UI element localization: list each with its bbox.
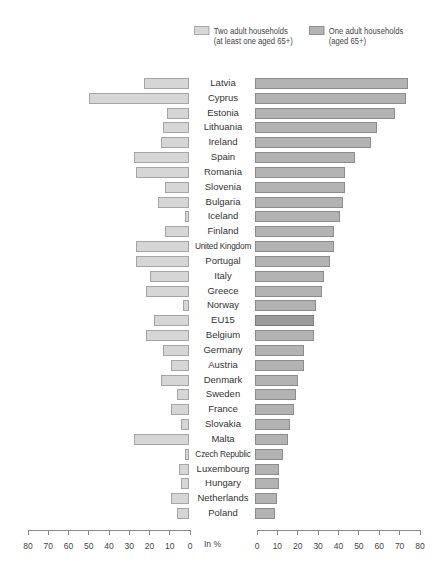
bar-one-adult (255, 434, 288, 445)
chart-row: Malta (0, 434, 440, 446)
chart-row: Finland (0, 226, 440, 238)
bar-two-adult (171, 360, 189, 371)
bar-one-adult (255, 449, 283, 460)
bar-two-adult (136, 167, 189, 178)
axis-tick (68, 530, 69, 535)
bar-one-adult (255, 211, 340, 222)
chart-row: France (0, 404, 440, 416)
axis-tick (48, 530, 49, 535)
bar-one-adult (255, 226, 334, 237)
bar-one-adult (255, 152, 355, 163)
chart-row: Denmark (0, 375, 440, 387)
axis-tick (149, 530, 150, 535)
axis-tick (169, 530, 170, 535)
country-label: France (190, 403, 256, 415)
bar-one-adult (255, 93, 406, 104)
axis-tick (88, 530, 89, 535)
legend-swatch-dark (309, 26, 324, 35)
chart-row: Italy (0, 271, 440, 283)
country-label: Greece (190, 285, 256, 297)
axis-tick-label: 80 (18, 541, 38, 551)
bar-two-adult (161, 137, 189, 148)
bar-one-adult (255, 360, 304, 371)
country-label: Italy (190, 270, 256, 282)
bar-two-adult (183, 300, 189, 311)
country-label: Sweden (190, 388, 256, 400)
country-label: Norway (190, 299, 256, 311)
country-label: Spain (190, 151, 256, 163)
bar-two-adult (163, 122, 189, 133)
axis-tick-label: 70 (38, 541, 58, 551)
bar-two-adult (146, 286, 189, 297)
axis-tick-label: 20 (140, 541, 160, 551)
bar-two-adult (185, 211, 189, 222)
bar-one-adult (255, 108, 395, 119)
chart-row: Romania (0, 167, 440, 179)
bar-one-adult (255, 493, 277, 504)
country-label: Slovakia (190, 418, 256, 430)
country-label: Netherlands (190, 492, 256, 504)
axis-tick (420, 530, 421, 535)
legend-one-adult-line2: (aged 65+) (329, 36, 403, 46)
bar-two-adult (181, 419, 189, 430)
right-axis: 01020304050607080 (257, 530, 420, 537)
country-label: Iceland (190, 210, 256, 222)
bar-one-adult (255, 122, 377, 133)
country-label: Malta (190, 433, 256, 445)
left-axis: 80706050403020100 (28, 530, 190, 537)
chart-row: Estonia (0, 108, 440, 120)
axis-tick-label: 50 (349, 541, 369, 551)
country-label: Romania (190, 166, 256, 178)
axis-tick-label: 40 (329, 541, 349, 551)
axis-tick-label: 60 (59, 541, 79, 551)
chart-row: Iceland (0, 211, 440, 223)
bar-one-adult (255, 286, 322, 297)
country-label: EU15 (190, 314, 256, 326)
country-label: Luxembourg (190, 463, 256, 475)
bar-one-adult (255, 389, 296, 400)
bar-two-adult (171, 404, 189, 415)
axis-tick (358, 530, 359, 535)
bar-one-adult (255, 345, 304, 356)
legend-two-adult-line2: (at least one aged 65+) (214, 36, 293, 46)
bar-one-adult (255, 478, 279, 489)
bar-one-adult (255, 241, 334, 252)
bar-one-adult (255, 167, 345, 178)
bar-one-adult (255, 508, 275, 519)
bar-two-adult (167, 108, 189, 119)
bar-one-adult (255, 256, 330, 267)
bar-two-adult (171, 493, 189, 504)
chart-row: Slovenia (0, 182, 440, 194)
legend-swatch-light (194, 26, 209, 35)
bar-two-adult (136, 256, 189, 267)
chart-row: Sweden (0, 389, 440, 401)
axis-tick (399, 530, 400, 535)
bar-one-adult (255, 197, 343, 208)
chart-row: Ireland (0, 137, 440, 149)
chart-row: Luxembourg (0, 464, 440, 476)
axis-tick (297, 530, 298, 535)
legend-one-adult-line1: One adult households (329, 26, 403, 36)
country-label: Poland (190, 507, 256, 519)
bar-two-adult (146, 330, 189, 341)
bar-one-adult (255, 137, 371, 148)
bar-two-adult (165, 226, 189, 237)
axis-tick-label: 40 (99, 541, 119, 551)
bar-two-adult (154, 315, 189, 326)
chart-row: Portugal (0, 256, 440, 268)
axis-tick (379, 530, 380, 535)
bar-two-adult (134, 434, 189, 445)
chart-row: EU15 (0, 315, 440, 327)
axis-tick-label: 70 (390, 541, 410, 551)
country-label: Lithuania (190, 121, 256, 133)
chart-row: Lithuania (0, 122, 440, 134)
bar-two-adult (181, 478, 189, 489)
bar-two-adult (89, 93, 189, 104)
chart-row: Hungary (0, 478, 440, 490)
unit-label: In % (204, 539, 221, 549)
bar-one-adult (255, 330, 314, 341)
bar-two-adult (150, 271, 189, 282)
bar-one-adult (255, 464, 279, 475)
bar-two-adult (158, 197, 189, 208)
chart-row: Germany (0, 345, 440, 357)
